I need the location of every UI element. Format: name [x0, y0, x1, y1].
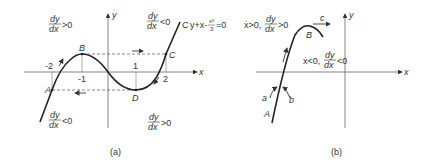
marker-a-label: a: [262, 93, 267, 103]
x-axis-label: x: [198, 67, 204, 77]
svg-text:3: 3: [210, 26, 214, 32]
point-c-label: C: [169, 50, 176, 60]
region-b-upper: ẋ>0, dy dx >0: [244, 14, 288, 34]
caption-a: (a): [110, 147, 121, 157]
svg-text:dy: dy: [148, 11, 158, 21]
svg-text:dy: dy: [266, 14, 276, 24]
point-a-b-label: A: [263, 109, 270, 119]
point-b-b-label: B: [306, 30, 312, 40]
svg-text:>0: >0: [62, 20, 72, 30]
tick-label-1: 1: [133, 61, 138, 71]
region-b-lower: ẋ<0, dy dx <0: [303, 50, 347, 70]
point-b-label: B: [79, 43, 85, 53]
point-a-label: A: [44, 85, 51, 95]
region-lower-right: dy dx >0: [148, 112, 171, 132]
svg-text:dx: dx: [265, 24, 275, 34]
svg-text:C: C: [182, 20, 189, 30]
svg-text:<0: <0: [62, 116, 72, 126]
figure-a: x y A B C D -2 -1 1 2 dy: [24, 10, 226, 157]
marker-b-label: b: [289, 95, 294, 105]
y-axis-label-b: y: [348, 10, 354, 20]
svg-text:dy: dy: [50, 110, 60, 120]
phase-diagram-figure: x y A B C D -2 -1 1 2 dy: [0, 0, 426, 167]
svg-text:>0: >0: [278, 20, 288, 30]
y-axis-label: y: [111, 10, 117, 20]
svg-text:ẋ>0,: ẋ>0,: [244, 20, 261, 30]
curve-equation: C y+x- x³ 3 =0: [182, 18, 226, 32]
region-upper-right: dy dx <0: [147, 11, 170, 31]
svg-text:dy: dy: [325, 50, 335, 60]
tick-label-2: 2: [163, 74, 168, 84]
x-axis-label-b: x: [403, 67, 409, 77]
marker-c-label: c: [320, 13, 325, 23]
arrow-a-icon: [270, 87, 277, 98]
region-lower-left: dy dx <0: [49, 110, 72, 130]
svg-text:<0: <0: [160, 17, 170, 27]
svg-text:=0: =0: [216, 20, 226, 30]
region-upper-left: dy dx >0: [49, 14, 72, 34]
svg-text:>0: >0: [161, 118, 171, 128]
svg-text:dy: dy: [50, 14, 60, 24]
tick-label-minus-2: -2: [45, 61, 53, 71]
tick-label-minus-1: -1: [78, 74, 86, 84]
svg-text:dx: dx: [147, 21, 157, 31]
point-d-label: D: [132, 93, 139, 103]
svg-text:dx: dx: [49, 120, 59, 130]
svg-text:dx: dx: [49, 24, 59, 34]
caption-b: (b): [331, 147, 342, 157]
svg-text:x³: x³: [209, 18, 214, 24]
figure-b: x y c a b A B ẋ>0, dy dx >0 ẋ<0, dy dx: [244, 10, 409, 157]
svg-text:y+x-: y+x-: [190, 20, 207, 30]
svg-text:dx: dx: [148, 122, 158, 132]
svg-text:ẋ<0,: ẋ<0,: [303, 56, 320, 66]
svg-text:dy: dy: [149, 112, 159, 122]
arrow-up-curve-icon: [59, 59, 63, 66]
trajectory-curve: [272, 26, 323, 123]
svg-text:dx: dx: [324, 60, 334, 70]
svg-text:<0: <0: [337, 56, 347, 66]
